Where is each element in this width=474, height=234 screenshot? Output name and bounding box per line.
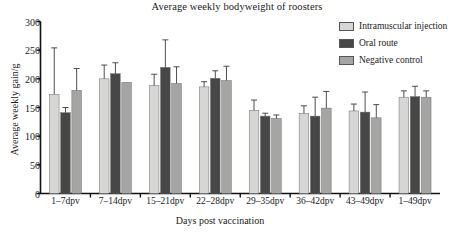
bar: [122, 82, 132, 193]
error-bar: [323, 91, 329, 108]
bar: [172, 83, 182, 193]
legend-swatch-icon: [339, 56, 354, 65]
bar: [249, 110, 259, 193]
bar: [371, 118, 381, 194]
error-bar: [262, 113, 268, 116]
legend-label: Intramuscular injection: [359, 21, 447, 32]
legend-item[interactable]: Oral route: [339, 36, 474, 51]
error-bar: [201, 82, 207, 87]
error-bar: [273, 115, 279, 118]
bar: [149, 86, 159, 194]
bar: [61, 113, 71, 194]
bar: [410, 97, 420, 194]
error-bar: [223, 66, 229, 80]
error-bar: [162, 40, 168, 68]
error-bar: [151, 74, 157, 85]
bar: [99, 79, 109, 194]
bar: [272, 118, 282, 193]
bar: [360, 112, 370, 193]
x-tick-label: 15–21dpv: [146, 196, 184, 206]
bar: [210, 78, 220, 193]
error-bar: [174, 67, 180, 84]
bar: [399, 97, 409, 193]
x-axis-title: Days post vaccination: [0, 215, 440, 226]
error-bar: [362, 92, 368, 112]
error-bar: [51, 48, 57, 94]
bar: [199, 87, 209, 194]
error-bar: [373, 105, 379, 118]
bar: [322, 108, 332, 193]
error-bar: [112, 63, 118, 74]
x-tick-label: 43–49dpv: [346, 196, 384, 206]
bar: [72, 90, 82, 193]
bar: [421, 97, 431, 193]
legend-label: Negative control: [359, 55, 423, 66]
bar: [310, 116, 320, 193]
bar: [260, 116, 270, 193]
error-bar: [62, 108, 68, 113]
x-tick-label: 7–14dpv: [99, 196, 132, 206]
bar-chart: Average weekly bodyweight of roosters Av…: [0, 0, 474, 234]
legend-item[interactable]: Intramuscular injection: [339, 19, 474, 34]
legend-swatch-icon: [339, 22, 354, 31]
bar: [349, 111, 359, 194]
legend-label: Oral route: [359, 38, 398, 49]
error-bar: [212, 71, 218, 78]
bar: [222, 81, 232, 194]
error-bar: [251, 100, 257, 110]
error-bar: [412, 86, 418, 96]
legend-item[interactable]: Negative control: [339, 53, 474, 68]
x-tick-label: 36–42dpv: [296, 196, 334, 206]
legend-swatch-icon: [339, 39, 354, 48]
x-tick-label: 22–28dpv: [196, 196, 234, 206]
error-bar: [312, 97, 318, 116]
error-bar: [74, 69, 80, 91]
error-bar: [301, 106, 307, 113]
x-tick-label: 29–35dpv: [246, 196, 284, 206]
error-bar: [101, 65, 107, 79]
error-bar: [401, 91, 407, 97]
x-tick-label: 1–49dpv: [398, 196, 431, 206]
bar: [299, 113, 309, 193]
bar: [49, 94, 59, 193]
error-bar: [423, 91, 429, 97]
bar: [111, 74, 121, 194]
chart-legend: Intramuscular injectionOral routeNegativ…: [339, 19, 474, 70]
x-tick-label: 1–7dpv: [51, 196, 80, 206]
error-bar: [351, 104, 357, 111]
bar: [161, 67, 171, 193]
